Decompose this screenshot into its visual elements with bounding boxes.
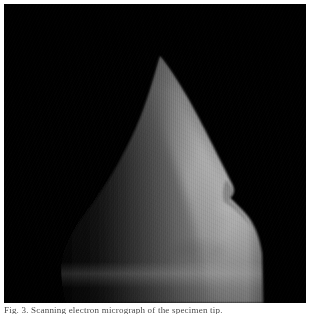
figure-caption: Fig. 3. Scanning electron micrograph of … [4,305,306,314]
specimen-vector [4,4,306,303]
specimen-image [4,4,306,303]
specimen-basal-band [44,262,274,288]
figure-page: Fig. 3. Scanning electron micrograph of … [0,0,310,314]
specimen-surface-mottle [174,241,226,259]
micrograph-plate [4,4,306,303]
